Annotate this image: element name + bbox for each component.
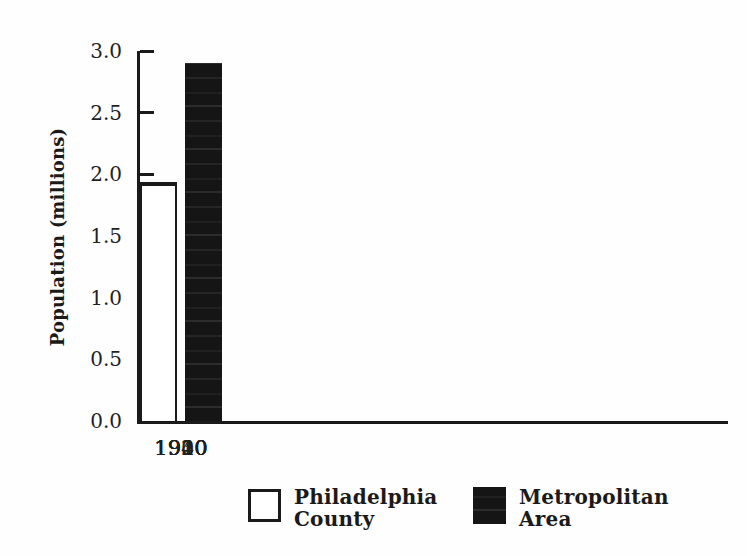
plot-area: 0.0 0.5 1.0 1.5 2.0 2.5 3.0 bbox=[137, 51, 728, 424]
y-tick-label: 0.5 bbox=[70, 349, 122, 369]
y-tick-label: 1.5 bbox=[70, 226, 122, 246]
y-axis-title: Population (millions) bbox=[47, 128, 68, 347]
legend: Philadelphia County Metropolitan Area bbox=[248, 486, 664, 530]
legend-item-philadelphia-county: Philadelphia County bbox=[248, 486, 439, 530]
legend-swatch-white-icon bbox=[248, 489, 281, 522]
y-tick-label: 2.0 bbox=[70, 164, 122, 184]
bar-philadelphia-county-1940 bbox=[140, 184, 177, 421]
population-bar-chart-figure: Population (millions) 0.0 0.5 1.0 1.5 2.… bbox=[0, 0, 747, 556]
bar-metropolitan-area-1940 bbox=[185, 63, 222, 421]
y-tick-label: 2.5 bbox=[70, 103, 122, 123]
bar-group-1940: 1940 bbox=[140, 51, 222, 421]
legend-label-metropolitan-area: Metropolitan Area bbox=[519, 486, 664, 530]
y-tick-label: 1.0 bbox=[70, 288, 122, 308]
legend-swatch-black-icon bbox=[473, 487, 506, 524]
y-tick-label: 3.0 bbox=[70, 41, 122, 61]
x-tick-label-1940: 1940 bbox=[140, 438, 222, 459]
y-tick-label: 0.0 bbox=[70, 411, 122, 431]
legend-label-philadelphia-county: Philadelphia County bbox=[294, 486, 439, 530]
legend-item-metropolitan-area: Metropolitan Area bbox=[473, 486, 664, 530]
